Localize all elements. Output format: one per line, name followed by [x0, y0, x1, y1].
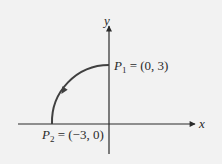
- point-p2-name: P: [41, 127, 50, 142]
- point-p2-label: P2 = (−3, 0): [41, 127, 104, 144]
- point-p1-name: P: [113, 58, 122, 73]
- diagram-canvas: x y P1 = (0, 3) P2 = (−3, 0): [0, 0, 222, 164]
- coordinate-plane: x y P1 = (0, 3) P2 = (−3, 0): [0, 0, 222, 164]
- x-axis-label: x: [198, 116, 205, 131]
- point-p1-coords: = (0, 3): [126, 58, 168, 73]
- quarter-circle-arc: [52, 65, 109, 124]
- y-axis-label: y: [102, 13, 110, 28]
- point-p1-label: P1 = (0, 3): [113, 58, 168, 75]
- point-p2-coords: = (−3, 0): [54, 127, 103, 142]
